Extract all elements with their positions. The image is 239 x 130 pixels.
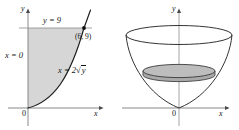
right-origin-label: 0 <box>172 110 176 118</box>
label-x-equals-0: x = 0 <box>5 51 23 60</box>
figure-root: x y 0 y = 9 x = 0 (6, 9) x = 2√y x y <box>0 0 239 130</box>
region-plot-panel: x y 0 y = 9 x = 0 (6, 9) x = 2√y <box>0 0 112 130</box>
left-x-axis-label: x <box>94 110 98 118</box>
disk-top-face <box>143 64 215 77</box>
radical-sign-icon: √ <box>76 65 81 75</box>
label-corner-point: (6, 9) <box>75 33 91 41</box>
y-axis-arrow <box>26 9 30 13</box>
label-curve-equation-text: x = 2 <box>58 65 76 75</box>
label-curve-equation: x = 2√y <box>58 65 86 75</box>
corner-point-marker <box>82 26 86 30</box>
y-axis-arrow-right <box>177 9 181 13</box>
solid-of-revolution-panel: x y 0 <box>112 0 239 130</box>
left-origin-label: 0 <box>22 110 26 118</box>
label-curve-radicand: y <box>81 65 86 75</box>
label-y-equals-9: y = 9 <box>43 16 61 25</box>
left-y-axis-label: y <box>21 5 25 13</box>
x-axis-arrow-right <box>225 106 230 110</box>
right-x-axis-label: x <box>219 110 223 118</box>
right-y-axis-label: y <box>172 5 176 13</box>
x-axis-arrow <box>99 106 104 110</box>
